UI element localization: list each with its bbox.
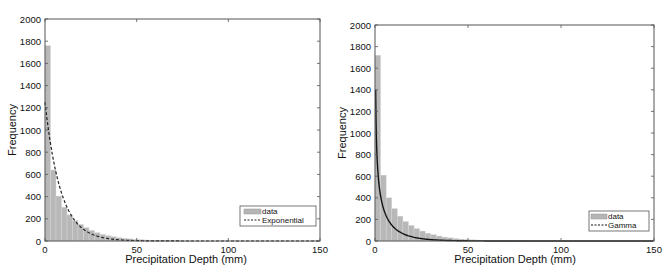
histogram-bar [397,216,403,241]
legend-data-swatch [591,214,607,219]
histogram-bar [89,230,95,241]
right-y-axis-label: Frequency [336,107,348,159]
legend-data-label: data [262,207,278,216]
y-tick-label: 800 [355,149,371,160]
histogram-bar [392,209,398,241]
left-y-axis-label: Frequency [6,104,18,156]
x-tick-label: 150 [312,244,328,255]
y-tick-label: 1200 [350,106,371,117]
y-tick-label: 1600 [350,63,371,74]
left-x-axis-label: Precipitation Depth (mm) [125,253,247,265]
legend-data-swatch [244,209,261,214]
y-tick-label: 600 [355,171,371,182]
y-tick-label: 0 [366,236,371,247]
x-tick-label: 0 [372,244,377,255]
y-tick-label: 600 [25,169,41,180]
y-tick-label: 1400 [20,80,41,91]
legend-fit-label: Gamma [608,221,637,230]
y-tick-label: 0 [36,236,41,247]
legend-fit-label: Exponential [262,216,304,225]
left-legend: data Exponential [240,206,316,226]
histogram-bar [408,225,414,241]
histogram-bar [56,196,62,241]
y-tick-label: 1200 [20,102,41,113]
right-legend: data Gamma [589,211,649,231]
histogram-bar [67,215,73,241]
histogram-bar [62,207,68,241]
y-tick-label: 2000 [20,14,41,25]
histogram-bar [386,198,392,241]
chart-exponential: 0200400600800100012001400160018002000 05… [0,0,669,275]
histogram-bar [45,46,51,241]
y-tick-label: 1400 [350,84,371,95]
histogram-bar [51,170,57,241]
y-tick-label: 1000 [350,128,371,139]
y-tick-label: 1600 [20,58,41,69]
y-tick-label: 1000 [20,125,41,136]
right-plot: 0200400600800100012001400160018002000 05… [336,20,662,266]
histogram-bar [375,55,381,241]
left-histogram-bars [45,46,194,241]
y-tick-label: 200 [355,214,371,225]
histogram-bar [403,222,409,241]
x-tick-label: 150 [646,244,662,255]
y-tick-label: 1800 [350,41,371,52]
right-histogram-bars [375,55,526,241]
left-plot: 0200400600800100012001400160018002000 05… [6,14,328,266]
right-axes-box [375,25,654,241]
legend-data-label: data [608,212,624,221]
histogram-bar [414,229,420,241]
x-tick-label: 0 [42,244,47,255]
y-tick-label: 1800 [20,36,41,47]
y-tick-label: 800 [25,147,41,158]
y-tick-label: 200 [25,213,41,224]
right-x-axis-label: Precipitation Depth (mm) [454,253,576,265]
y-tick-label: 400 [25,191,41,202]
y-tick-label: 400 [355,192,371,203]
y-tick-label: 2000 [350,20,371,31]
